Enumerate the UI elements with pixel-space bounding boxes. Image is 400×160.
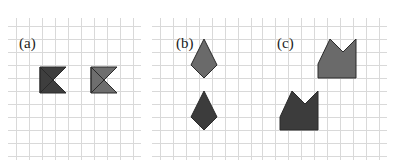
crown-light-shape <box>318 39 356 78</box>
panel-c-label: (c) <box>277 36 294 51</box>
panel-a: (a) (b) (c) <box>0 0 400 160</box>
panel-c-grid <box>254 18 387 160</box>
bowtie-dark-shape <box>40 67 66 93</box>
panel-b-label: (b) <box>176 36 194 51</box>
panel-b-grid <box>152 18 259 160</box>
crown-dark-shape <box>280 91 318 130</box>
bowtie-light-shape <box>91 67 117 93</box>
diagram-canvas <box>0 0 400 160</box>
panel-a-label: (a) <box>19 36 36 51</box>
kite-light-shape <box>191 39 217 78</box>
kite-dark-shape <box>191 91 217 130</box>
